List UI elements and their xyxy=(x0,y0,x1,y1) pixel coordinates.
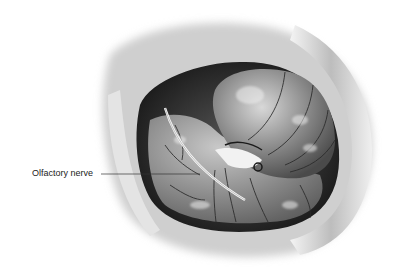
brain-illustration xyxy=(0,0,395,267)
olfactory-nerve-label: Olfactory nerve xyxy=(32,168,93,179)
